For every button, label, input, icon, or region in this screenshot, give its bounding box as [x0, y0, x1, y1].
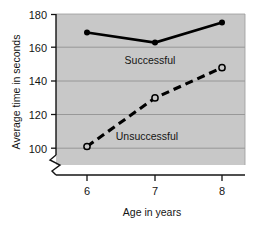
chart-figure: 180 160 140 120 100 6 7 8 Age in years A… — [0, 0, 270, 235]
x-axis-title: Age in years — [123, 206, 181, 218]
x-axis-ticks — [87, 175, 222, 181]
data-point-successful-age8 — [219, 19, 225, 25]
y-axis-ticks — [51, 15, 56, 149]
line-chart: 180 160 140 120 100 6 7 8 Age in years A… — [0, 0, 270, 235]
ytick-label-100: 100 — [29, 143, 47, 155]
ytick-label-140: 140 — [29, 75, 47, 87]
data-point-successful-age6 — [84, 30, 90, 36]
data-point-unsuccessful-age6 — [84, 143, 90, 149]
data-point-unsuccessful-age7 — [152, 95, 158, 101]
ytick-label-160: 160 — [29, 42, 47, 54]
xtick-label-6: 6 — [84, 185, 90, 197]
plot-area-background — [56, 14, 245, 165]
xtick-label-7: 7 — [152, 185, 158, 197]
data-point-successful-age7 — [152, 40, 158, 46]
ytick-label-180: 180 — [29, 9, 47, 21]
data-point-unsuccessful-age8 — [219, 65, 225, 71]
y-axis-title: Average time in seconds — [10, 35, 22, 150]
series-label-unsuccessful: Unsuccessful — [116, 130, 178, 142]
ytick-label-120: 120 — [29, 109, 47, 121]
series-label-successful: Successful — [125, 54, 176, 66]
xtick-label-8: 8 — [219, 185, 225, 197]
